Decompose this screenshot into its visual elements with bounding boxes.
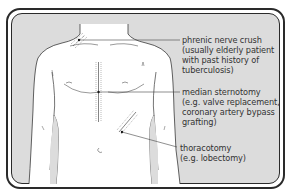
label-line: tuberculosis) bbox=[182, 65, 274, 75]
label-line: grafting) bbox=[182, 117, 280, 127]
label-line: (e.g. valve replacement, bbox=[182, 97, 280, 107]
label-line: (usually elderly patient bbox=[182, 45, 274, 55]
label-line: phrenic nerve crush bbox=[182, 35, 274, 45]
label-line: median sternotomy bbox=[182, 87, 280, 97]
label-phrenic-nerve-crush: phrenic nerve crush (usually elderly pat… bbox=[182, 35, 274, 75]
label-line: (e.g. lobectomy) bbox=[180, 153, 246, 163]
label-line: thoracotomy bbox=[180, 143, 246, 153]
label-line: coronary artery bypass bbox=[182, 107, 280, 117]
label-line: with past history of bbox=[182, 55, 274, 65]
label-median-sternotomy: median sternotomy (e.g. valve replacemen… bbox=[182, 87, 280, 127]
label-thoracotomy: thoracotomy (e.g. lobectomy) bbox=[180, 143, 246, 163]
